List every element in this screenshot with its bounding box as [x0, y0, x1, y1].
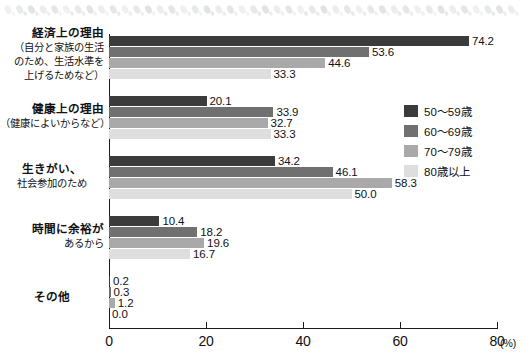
bar-value-g5-s4: 0.0 [112, 309, 128, 319]
legend-label: 60～69歳 [424, 123, 472, 139]
category-label-line: 上げるためなど） [0, 69, 104, 83]
x-tick-label-60: 60 [392, 333, 407, 349]
bar-g2-s2 [109, 107, 273, 117]
x-tick-20 [206, 322, 207, 329]
bar-value-g4-s4: 16.7 [193, 249, 215, 259]
bar-g1-s1 [109, 36, 469, 46]
legend-label: 80歳以上 [424, 163, 470, 179]
category-label-3: 生きがい、社会参加のため [0, 161, 104, 191]
category-label-line: その他 [0, 289, 104, 305]
bar-value-g2-s4: 33.3 [274, 129, 296, 139]
bar-value-g5-s3: 1.2 [118, 298, 134, 308]
legend-swatch-icon [404, 105, 418, 117]
bar-chart: 020406080 (%) 経済上の理由（自分と家族の生活のため、生活水準を上げ… [0, 22, 531, 362]
category-label-line: 時間に余裕が [0, 221, 104, 237]
category-label-line: 生きがい、 [0, 161, 104, 177]
bar-value-g2-s3: 32.7 [271, 118, 293, 128]
bar-g3-s3 [109, 178, 392, 188]
category-label-1: 経済上の理由（自分と家族の生活のため、生活水準を上げるためなど） [0, 25, 104, 83]
legend-swatch-icon [404, 145, 418, 157]
bar-value-g4-s1: 10.4 [162, 216, 184, 226]
category-label-line: あるから [0, 237, 104, 251]
category-label-line: （健康によいからなど） [0, 117, 104, 131]
legend-item-1[interactable]: 50～59歳 [404, 102, 472, 120]
bar-g1-s3 [109, 58, 325, 68]
legend-item-3[interactable]: 70～79歳 [404, 142, 472, 160]
bar-g5-s3 [109, 298, 115, 308]
bar-value-g3-s4: 50.0 [355, 189, 377, 199]
bar-g5-s2 [109, 287, 111, 297]
bar-g3-s1 [109, 156, 275, 166]
bar-value-g3-s1: 34.2 [278, 156, 300, 166]
category-label-line: のため、生活水準を [0, 55, 104, 69]
bar-value-g1-s2: 53.6 [372, 47, 394, 57]
legend-swatch-icon [404, 125, 418, 137]
legend: 50～59歳60～69歳70～79歳80歳以上 [404, 102, 472, 182]
bar-value-g2-s1: 20.1 [210, 96, 232, 106]
bar-g1-s4 [109, 69, 271, 79]
category-label-5: その他 [0, 289, 104, 305]
bar-g2-s1 [109, 96, 207, 106]
bar-g4-s3 [109, 238, 204, 248]
legend-label: 70～79歳 [424, 143, 472, 159]
bar-g4-s1 [109, 216, 159, 226]
bar-value-g4-s3: 19.6 [207, 238, 229, 248]
legend-item-2[interactable]: 60～69歳 [404, 122, 472, 140]
bar-value-g5-s2: 0.3 [114, 287, 130, 297]
bar-g2-s4 [109, 129, 271, 139]
x-tick-label-0: 0 [105, 333, 113, 349]
category-label-line: 社会参加のため [0, 177, 104, 191]
bar-value-g1-s4: 33.3 [274, 69, 296, 79]
category-label-line: （自分と家族の生活 [0, 41, 104, 55]
bar-value-g1-s3: 44.6 [328, 58, 350, 68]
decorative-top-border [0, 0, 531, 22]
bar-value-g2-s2: 33.9 [276, 107, 298, 117]
legend-item-4[interactable]: 80歳以上 [404, 162, 472, 180]
bar-value-g4-s2: 18.2 [200, 227, 222, 237]
bar-value-g1-s1: 74.2 [472, 36, 494, 46]
x-tick-label-20: 20 [198, 333, 213, 349]
bar-g4-s4 [109, 249, 190, 259]
bar-value-g3-s2: 46.1 [336, 167, 358, 177]
category-label-line: 経済上の理由 [0, 25, 104, 41]
x-tick-60 [400, 322, 401, 329]
x-tick-80 [497, 322, 498, 329]
category-label-4: 時間に余裕があるから [0, 221, 104, 251]
x-tick-label-40: 40 [295, 333, 310, 349]
bar-g3-s2 [109, 167, 333, 177]
x-tick-40 [303, 322, 304, 329]
legend-label: 50～59歳 [424, 103, 472, 119]
category-label-2: 健康上の理由（健康によいからなど） [0, 101, 104, 131]
bar-g2-s3 [109, 118, 268, 128]
x-tick-0 [109, 322, 110, 329]
legend-swatch-icon [404, 165, 418, 177]
bar-g3-s4 [109, 189, 352, 199]
x-axis-unit-label: (%) [500, 337, 516, 349]
bar-g1-s2 [109, 47, 369, 57]
category-label-line: 健康上の理由 [0, 101, 104, 117]
bar-g4-s2 [109, 227, 197, 237]
bar-value-g5-s1: 0.2 [113, 276, 129, 286]
bar-g5-s1 [109, 276, 110, 286]
